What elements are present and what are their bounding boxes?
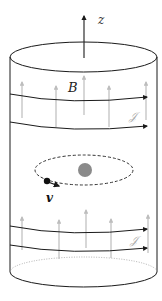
field-arrows-top [22,76,146,127]
bottom-back-arc [10,257,157,272]
current-label-bottom: 𝒥 [129,234,142,247]
field-label: B [67,80,78,95]
current-loops-top [10,94,147,129]
velocity-label: v [46,191,54,205]
center-charge [78,163,92,177]
solenoid-diagram: z B 𝒥 v 𝒥 [0,0,162,301]
particle [44,178,50,184]
z-axis-label: z [97,13,105,27]
current-loops-bottom [10,226,147,251]
z-axis: z [84,13,105,58]
orbit: v [35,155,133,205]
current-label-top: 𝒥 [128,110,141,123]
bottom-front-arc [10,272,157,287]
